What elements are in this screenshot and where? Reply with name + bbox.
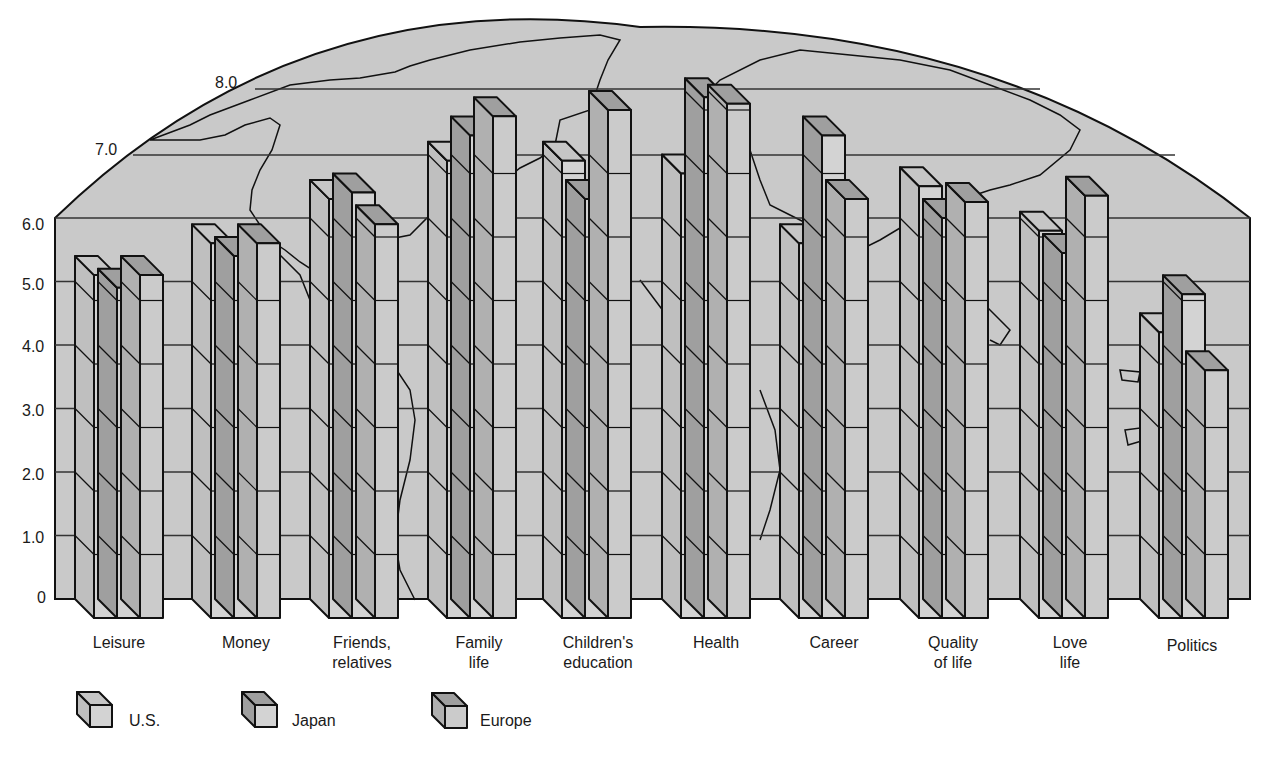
bar-europe bbox=[121, 256, 163, 618]
legend-item-europe: Europe bbox=[474, 712, 532, 732]
x-label-career: Career bbox=[810, 633, 859, 653]
y-tick-1: 1.0 bbox=[22, 529, 44, 547]
bar-group-2 bbox=[310, 174, 398, 618]
x-label-quality-of-life: Qualityof life bbox=[928, 633, 978, 673]
legend-label-japan: Japan bbox=[292, 712, 336, 730]
legend-label-us: U.S. bbox=[129, 712, 160, 730]
y-tick-4: 4.0 bbox=[22, 338, 44, 356]
bar-europe bbox=[1066, 177, 1108, 618]
y-tick-7: 7.0 bbox=[95, 141, 117, 159]
x-label-money: Money bbox=[222, 633, 270, 653]
x-label-family-life: Familylife bbox=[455, 633, 502, 673]
bar-europe bbox=[708, 85, 750, 618]
bar-europe bbox=[1186, 351, 1228, 618]
bar-europe bbox=[589, 91, 631, 618]
y-tick-6: 6.0 bbox=[22, 216, 44, 234]
bar-group-5 bbox=[662, 78, 750, 618]
bar-europe bbox=[356, 205, 398, 618]
y-tick-5: 5.0 bbox=[22, 276, 44, 294]
bar-europe bbox=[238, 224, 280, 618]
legend-item-japan: Japan bbox=[286, 712, 336, 732]
x-label-friends-relatives: Friends,relatives bbox=[332, 633, 392, 673]
bar-europe bbox=[946, 183, 988, 618]
bar-group-7 bbox=[900, 167, 988, 618]
y-tick-3: 3.0 bbox=[22, 402, 44, 420]
x-label-love-life: Lovelife bbox=[1053, 633, 1088, 673]
y-tick-0: 0 bbox=[37, 589, 46, 607]
chart-canvas bbox=[0, 0, 1280, 761]
legend-item-us: U.S. bbox=[123, 712, 160, 732]
bar-group-1 bbox=[192, 224, 280, 618]
legend-cube-europe bbox=[432, 693, 467, 728]
x-label-health: Health bbox=[693, 633, 739, 653]
x-label-politics: Politics bbox=[1167, 636, 1218, 656]
legend-cube-us bbox=[77, 692, 112, 727]
bar-europe bbox=[826, 180, 868, 618]
y-tick-8: 8.0 bbox=[215, 74, 237, 92]
legend-cube-japan bbox=[242, 692, 277, 727]
bar-group-3 bbox=[428, 97, 516, 618]
legend-label-europe: Europe bbox=[480, 712, 532, 730]
bar-group-8 bbox=[1020, 177, 1108, 618]
y-tick-2: 2.0 bbox=[22, 466, 44, 484]
x-label-childrens-education: Children'seducation bbox=[563, 633, 634, 673]
x-label-leisure: Leisure bbox=[93, 633, 145, 653]
bar-europe bbox=[474, 97, 516, 618]
bar-group-0 bbox=[75, 256, 163, 618]
